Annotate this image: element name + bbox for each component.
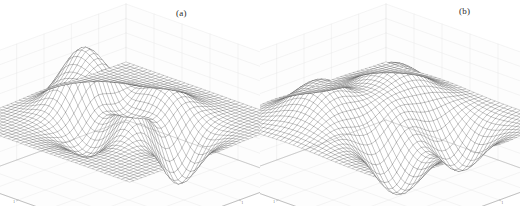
svg-text:1: 1 — [502, 201, 504, 205]
svg-text:1: 1 — [273, 200, 275, 204]
panel-a-plot: -8-6-4-202468-3-2-10123-3-2-10123 — [0, 0, 260, 206]
svg-text:1: 1 — [242, 201, 244, 205]
panel-a: (a) t p2 p1 -8-6-4-202468-3-2-10123-3-2-… — [0, 0, 260, 206]
figure-container: (a) t p2 p1 -8-6-4-202468-3-2-10123-3-2-… — [0, 0, 520, 206]
panel-b: (b) a p2 p1 -8-6-4-202468-3-2-10123-3-2-… — [260, 0, 520, 206]
panel-b-plot: -8-6-4-202468-3-2-10123-3-2-10123 — [260, 0, 520, 206]
svg-text:1: 1 — [13, 200, 15, 204]
